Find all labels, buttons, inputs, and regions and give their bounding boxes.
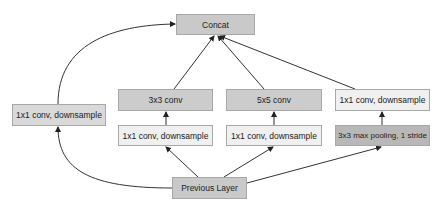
reduce-3x3-node: 1x1 conv, downsample [118, 125, 213, 146]
edge-pool1x1-to-concat [220, 36, 355, 89]
conv3x3-node: 3x3 conv [118, 89, 213, 111]
left-1x1-conv-node: 1x1 conv, downsample [12, 104, 106, 126]
edge-prev-to-pool [247, 147, 381, 183]
edge-prev-to-red3 [166, 147, 198, 177]
concat-node: Concat [176, 14, 255, 35]
max-pool-node: 3x3 max pooling, 1 stride [335, 125, 430, 146]
edge-conv3-to-concat [174, 36, 214, 89]
pool-projection-node: 1x1 conv, downsample [335, 89, 430, 111]
reduce-5x5-node: 1x1 conv, downsample [226, 125, 322, 146]
previous-layer-node: Previous Layer [172, 177, 247, 199]
edge-prev-to-red5 [224, 147, 273, 177]
conv5x5-node: 5x5 conv [226, 89, 322, 111]
